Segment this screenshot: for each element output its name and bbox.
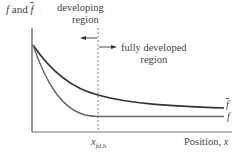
f-curve-label: f — [227, 111, 230, 122]
fbar-curve-label: f — [226, 99, 229, 110]
arrow-right-icon — [111, 45, 117, 49]
developing-region-label: developing region — [57, 2, 104, 26]
x-axis-label: Position, x — [184, 136, 228, 147]
fully-developed-region-label: fully developed region — [121, 42, 187, 66]
fd-marker-label: xfd,h — [91, 136, 106, 150]
arrow-left-icon — [80, 36, 86, 40]
y-axis-label: f and f — [6, 3, 34, 15]
